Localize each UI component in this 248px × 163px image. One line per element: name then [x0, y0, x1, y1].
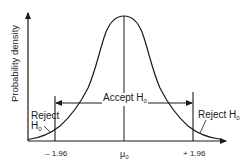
- left-reject-subscript: 0: [38, 126, 41, 132]
- accept-region-label: Accept H0: [102, 93, 148, 106]
- right-reject-label: Reject H0: [198, 110, 240, 123]
- tick-label-right: + 1.96: [183, 150, 205, 158]
- hypothesis-test-diagram: Probability density Accept H0 Reject H0 …: [0, 0, 248, 163]
- right-reject-label-text: Reject H: [198, 109, 236, 120]
- y-axis-label: Probability density: [10, 25, 20, 102]
- right-reject-label-subscript: 0: [236, 115, 239, 121]
- accept-label-text: Accept H: [103, 92, 144, 103]
- accept-label-subscript: 0: [144, 98, 147, 104]
- tick-center-subscript: 0: [125, 154, 128, 160]
- y-axis-label-text: Probability density: [9, 25, 20, 102]
- diagram-canvas: [0, 0, 248, 163]
- tick-right-text: + 1.96: [183, 149, 205, 158]
- left-reject-label: Reject H0: [31, 111, 59, 134]
- left-reject-label-line2: H0: [31, 121, 59, 134]
- tick-label-center: μ0: [120, 150, 129, 161]
- tick-left-text: – 1.96: [45, 149, 67, 158]
- tick-label-left: – 1.96: [45, 150, 67, 158]
